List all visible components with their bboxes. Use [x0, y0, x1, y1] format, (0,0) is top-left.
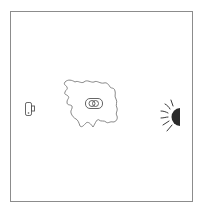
camera-icon [26, 103, 35, 116]
object-icon [86, 99, 103, 109]
blob-outline [64, 80, 117, 127]
sun-half-disc [172, 108, 181, 126]
sun-icon [161, 100, 180, 131]
diagram-canvas [0, 0, 203, 206]
sun-rays [161, 100, 173, 131]
